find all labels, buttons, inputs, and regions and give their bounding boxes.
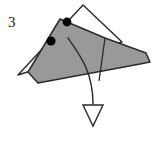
figure-container: 3 (0, 0, 160, 141)
fold-point-right-dot (63, 18, 72, 27)
step-number-label: 3 (8, 14, 16, 30)
origami-step-diagram: 3 (0, 0, 160, 141)
fold-point-left-dot (46, 36, 55, 45)
